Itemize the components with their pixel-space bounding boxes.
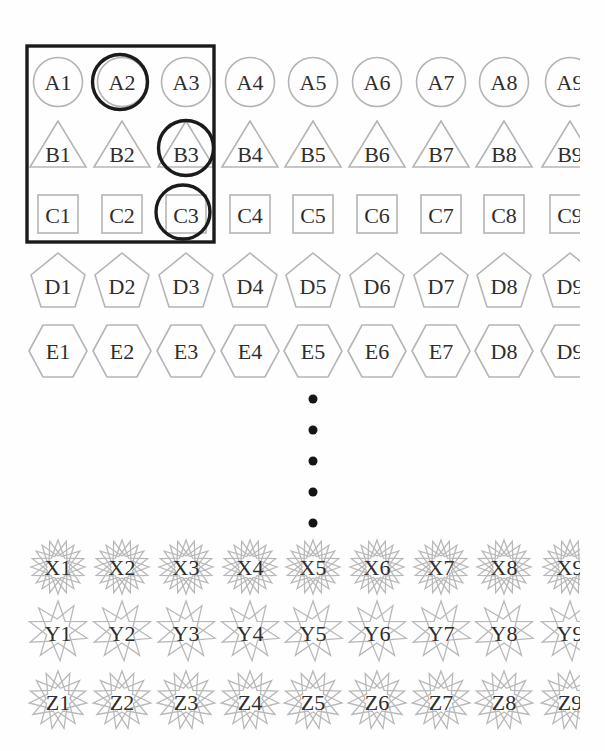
shape-row-y: Y1Y2Y3Y4Y5Y6Y7Y8Y9 [30,601,600,661]
node-label-Y6: Y6 [364,621,391,646]
node-Z3: Z3 [157,671,215,728]
node-C1: C1 [38,195,78,233]
node-C7: C7 [421,195,461,233]
node-label-C8: C8 [491,203,517,228]
node-X7: X7 [414,540,468,594]
node-label-E2: E2 [110,339,134,364]
node-label-E3: E3 [174,339,198,364]
node-A8: A8 [480,58,529,107]
node-D8: D8 [475,325,533,377]
node-label-A9: A9 [557,70,584,95]
node-label-C4: C4 [237,203,263,228]
node-C5: C5 [293,195,333,233]
node-B1: B1 [30,121,86,167]
node-X6: X6 [350,540,404,594]
node-X3: X3 [159,540,213,594]
node-label-B9: B9 [557,142,583,167]
node-label-D8: D8 [491,339,518,364]
node-X4: X4 [223,540,277,594]
node-label-A5: A5 [300,70,327,95]
node-E6: E6 [348,325,406,377]
node-label-Z4: Z4 [238,690,262,715]
node-label-Z1: Z1 [46,690,70,715]
node-B2: B2 [94,121,150,167]
node-label-X6: X6 [364,555,391,580]
node-C8: C8 [484,195,524,233]
node-label-X5: X5 [300,555,327,580]
node-E1: E1 [29,325,87,377]
node-label-X1: X1 [45,555,72,580]
shape-row-z: Z1Z2Z3Z4Z5Z6Z7Z8Z9 [29,671,599,728]
node-label-D9: D9 [557,339,584,364]
node-label-C5: C5 [300,203,326,228]
node-label-Z7: Z7 [429,690,453,715]
node-D7: D7 [414,253,468,307]
node-label-Y1: Y1 [45,621,72,646]
ellipsis-dot [309,519,318,528]
node-A1: A1 [34,58,83,107]
node-X5: X5 [286,540,340,594]
node-Y1: Y1 [30,601,88,661]
node-A3: A3 [162,58,211,107]
node-B7: B7 [413,121,469,167]
node-label-A6: A6 [364,70,391,95]
node-D4: D4 [223,253,277,307]
node-B4: B4 [222,121,278,167]
shape-row-x: X1X2X3X4X5X6X7X8X9 [31,540,597,594]
node-label-D9: D9 [557,274,584,299]
node-label-B8: B8 [491,142,517,167]
shape-row-b: B1B2B3B4B5B6B7B8B9 [30,121,598,167]
ellipsis-dot [309,457,318,466]
node-E3: E3 [157,325,215,377]
node-label-E4: E4 [238,339,262,364]
node-Z4: Z4 [221,671,279,728]
node-label-Z9: Z9 [558,690,582,715]
node-X2: X2 [95,540,149,594]
node-label-Y9: Y9 [557,621,584,646]
node-label-C1: C1 [45,203,71,228]
node-A4: A4 [226,58,275,107]
node-Z1: Z1 [29,671,87,728]
node-C2: C2 [102,195,142,233]
node-E4: E4 [221,325,279,377]
scan-cut-edge [580,0,605,751]
node-label-Z3: Z3 [174,690,198,715]
node-label-Z2: Z2 [110,690,134,715]
node-label-Y2: Y2 [109,621,136,646]
node-label-C6: C6 [364,203,390,228]
node-E7: E7 [412,325,470,377]
node-E5: E5 [284,325,342,377]
node-Z7: Z7 [412,671,470,728]
node-E2: E2 [93,325,151,377]
node-label-X3: X3 [173,555,200,580]
node-A2: A2 [98,58,147,107]
node-Y3: Y3 [158,601,216,661]
node-label-C2: C2 [109,203,135,228]
node-label-Y5: Y5 [300,621,327,646]
ellipsis-dot [309,426,318,435]
node-label-C7: C7 [428,203,454,228]
node-label-Z5: Z5 [301,690,325,715]
node-label-D7: D7 [428,274,455,299]
node-label-B7: B7 [428,142,454,167]
node-label-Y3: Y3 [173,621,200,646]
ellipsis-dot [309,488,318,497]
node-label-B3: B3 [173,142,199,167]
shape-grid-figure: A1A2A3A4A5A6A7A8A9B1B2B3B4B5B6B7B8B9C1C2… [0,0,605,751]
shape-row-e: E1E2E3E4E5E6E7D8D9 [29,325,599,377]
node-label-Y4: Y4 [237,621,264,646]
node-label-C9: C9 [557,203,583,228]
node-Z5: Z5 [284,671,342,728]
node-label-A7: A7 [428,70,455,95]
node-D1: D1 [31,253,85,307]
node-D8: D8 [477,253,531,307]
node-label-B4: B4 [237,142,263,167]
node-C3: C3 [166,195,206,233]
node-label-E7: E7 [429,339,453,364]
node-label-X4: X4 [237,555,264,580]
node-X8: X8 [477,540,531,594]
node-label-Z6: Z6 [365,690,389,715]
node-label-D1: D1 [45,274,72,299]
node-C4: C4 [230,195,270,233]
node-X1: X1 [31,540,85,594]
